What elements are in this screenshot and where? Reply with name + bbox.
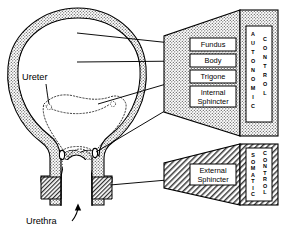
svg-text:M: M — [251, 85, 256, 91]
ureteral-orifice-left — [46, 104, 51, 109]
label-internal-sphincter-line1: Internal — [201, 88, 226, 97]
svg-text:O: O — [263, 81, 267, 87]
svg-text:O: O — [263, 183, 267, 189]
svg-text:O: O — [251, 159, 255, 165]
svg-text:C: C — [263, 150, 267, 156]
svg-text:C: C — [263, 36, 267, 42]
label-ureter: Ureter — [22, 72, 48, 82]
svg-text:A: A — [251, 172, 255, 178]
svg-text:N: N — [251, 67, 255, 73]
label-body: Body — [205, 56, 222, 65]
label-trigone: Trigone — [201, 72, 226, 81]
svg-text:M: M — [251, 165, 256, 171]
autonomic-part-boxes: Fundus Body Trigone Internal Sphincter — [190, 38, 236, 107]
svg-text:N: N — [263, 54, 267, 60]
label-external-sphincter-line2: Sphincter — [197, 175, 229, 184]
svg-text:O: O — [263, 157, 267, 163]
svg-text:N: N — [263, 163, 267, 169]
external-sphincter-muscle-right — [92, 177, 112, 199]
ureteral-orifice-right — [110, 101, 115, 106]
svg-text:A: A — [251, 31, 255, 37]
label-internal-sphincter-line2: Sphincter — [197, 97, 229, 106]
svg-text:S: S — [251, 152, 255, 158]
internal-sphincter-ring-right — [92, 148, 97, 157]
autonomic-control-inner — [246, 26, 272, 122]
label-fundus: Fundus — [201, 40, 226, 49]
svg-text:R: R — [263, 72, 267, 78]
external-sphincter-muscle-left — [41, 177, 61, 199]
bladder-innervation-diagram: A U T O N O M I C C O N T R O L Fundus B… — [0, 0, 282, 230]
svg-text:C: C — [251, 103, 255, 109]
svg-text:O: O — [251, 76, 255, 82]
svg-text:C: C — [251, 191, 255, 197]
svg-text:R: R — [263, 176, 267, 182]
svg-text:U: U — [251, 40, 255, 46]
label-urethra: Urethra — [26, 216, 58, 226]
svg-text:O: O — [251, 58, 255, 64]
urethra-lumen — [63, 160, 91, 206]
internal-sphincter-ring-left — [59, 150, 64, 159]
somatic-control-inner — [246, 148, 272, 201]
label-external-sphincter-line1: External — [199, 166, 226, 175]
svg-text:O: O — [263, 45, 267, 51]
